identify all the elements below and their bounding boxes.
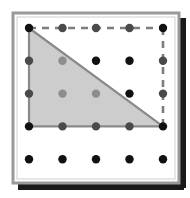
grid-dot-c1-r4[interactable] [25,122,33,130]
geoboard-svg: Dot grid geoboard with shaded right tria… [0,0,190,198]
grid-dot-c3-r5[interactable] [92,155,100,163]
grid-dot-c2-r2[interactable] [58,57,66,65]
grid-dot-c3-r1[interactable] [92,24,100,32]
grid-dot-c1-r5[interactable] [25,155,33,163]
grid-dot-c5-r3[interactable] [159,89,167,97]
figure-root: Dot grid geoboard with shaded right tria… [0,0,190,198]
grid-dot-c4-r2[interactable] [125,57,133,65]
grid-dot-c4-r1[interactable] [125,24,133,32]
grid-dot-c5-r4[interactable] [159,122,167,130]
grid-dot-c2-r1[interactable] [58,24,66,32]
grid-dot-c1-r2[interactable] [25,57,33,65]
grid-dot-c2-r4[interactable] [58,122,66,130]
grid-dot-c1-r3[interactable] [25,89,33,97]
grid-dot-c4-r3[interactable] [125,89,133,97]
grid-dot-c4-r4[interactable] [125,122,133,130]
grid-dot-c5-r5[interactable] [159,155,167,163]
grid-dot-c4-r5[interactable] [125,155,133,163]
grid-dot-c2-r3[interactable] [58,89,66,97]
grid-dot-c3-r4[interactable] [92,122,100,130]
grid-dot-c3-r2[interactable] [92,57,100,65]
grid-dot-c1-r1[interactable] [25,24,33,32]
grid-dot-c2-r5[interactable] [58,155,66,163]
grid-dot-c5-r1[interactable] [159,24,167,32]
grid-dot-c3-r3[interactable] [92,89,100,97]
grid-dot-c5-r2[interactable] [159,57,167,65]
